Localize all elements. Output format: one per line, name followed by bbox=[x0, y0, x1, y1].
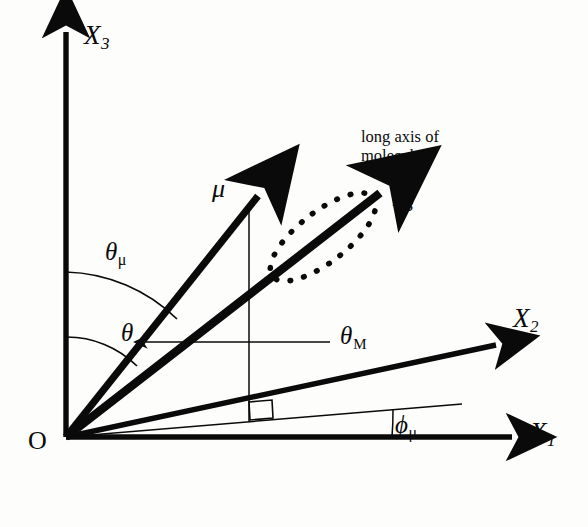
vector-x3-molecular bbox=[66, 193, 380, 437]
angle-label-theta: θ bbox=[121, 320, 133, 345]
angle-label-theta-mu: θμ bbox=[105, 239, 126, 268]
long-axis-annotation: long axis of molecule bbox=[361, 127, 439, 166]
vector-geometry-figure: X3 X2 X1 μ x3 θμ θ θM ϕμ O long axis of … bbox=[0, 0, 588, 527]
axis-label-x3: X3 bbox=[84, 22, 110, 52]
arc-phi-mu bbox=[392, 410, 393, 437]
vector-label-x3: x3 bbox=[393, 185, 414, 214]
angle-label-theta-m: θM bbox=[340, 323, 367, 352]
figure-canvas bbox=[0, 0, 588, 527]
vector-label-mu: μ bbox=[212, 176, 225, 202]
angle-label-phi-mu: ϕμ bbox=[395, 412, 417, 441]
vector-x3-line bbox=[66, 193, 380, 437]
right-angle-marker bbox=[249, 400, 273, 420]
origin-label: O bbox=[28, 428, 47, 454]
axis-label-x2: X2 bbox=[513, 305, 539, 335]
axis-label-x1: X1 bbox=[530, 419, 556, 449]
arc-theta-mu bbox=[66, 272, 177, 319]
